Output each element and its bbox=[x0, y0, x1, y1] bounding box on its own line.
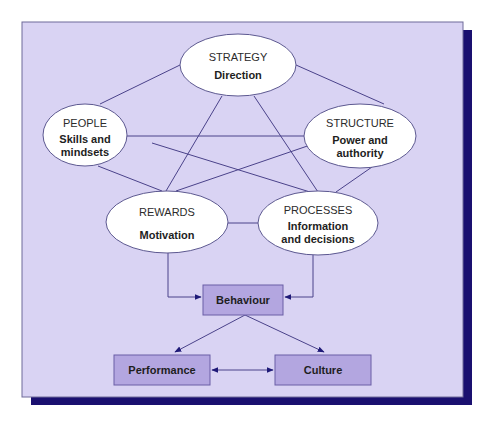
box-behaviour-label: Behaviour bbox=[216, 294, 271, 306]
node-processes: PROCESSES Information and decisions bbox=[258, 191, 378, 255]
node-structure: STRUCTURE Power and authority bbox=[304, 104, 416, 168]
node-strategy-shape bbox=[180, 34, 296, 96]
node-structure-subtitle-line1: Power and bbox=[332, 134, 388, 146]
box-culture-label: Culture bbox=[304, 364, 343, 376]
node-people-subtitle-line1: Skills and bbox=[59, 133, 110, 145]
box-performance-label: Performance bbox=[128, 364, 195, 376]
node-structure-title: STRUCTURE bbox=[326, 117, 394, 129]
box-performance: Performance bbox=[114, 355, 210, 385]
box-behaviour: Behaviour bbox=[203, 285, 283, 315]
node-structure-subtitle-line2: authority bbox=[336, 147, 384, 159]
node-processes-subtitle-line2: and decisions bbox=[281, 233, 354, 245]
node-rewards-title: REWARDS bbox=[139, 206, 195, 218]
node-strategy: STRATEGY Direction bbox=[180, 34, 296, 96]
node-rewards-shape bbox=[106, 191, 228, 253]
diagram-canvas: STRATEGY Direction PEOPLE Skills and min… bbox=[0, 0, 490, 424]
node-rewards-subtitle: Motivation bbox=[140, 229, 195, 241]
node-people: PEOPLE Skills and mindsets bbox=[43, 104, 127, 166]
box-culture: Culture bbox=[275, 355, 371, 385]
node-processes-subtitle-line1: Information bbox=[288, 220, 349, 232]
node-rewards: REWARDS Motivation bbox=[106, 191, 228, 253]
node-strategy-subtitle: Direction bbox=[214, 69, 262, 81]
node-processes-title: PROCESSES bbox=[284, 204, 352, 216]
cut-off-caption bbox=[32, 417, 432, 424]
node-people-subtitle-line2: mindsets bbox=[61, 146, 109, 158]
node-strategy-title: STRATEGY bbox=[209, 51, 268, 63]
node-people-title: PEOPLE bbox=[63, 117, 107, 129]
